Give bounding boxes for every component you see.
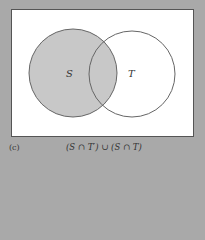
set-expression: (S ∩ T′) ∪ (S ∩ T) bbox=[66, 142, 142, 152]
set-t-label: T bbox=[128, 68, 135, 79]
set-s-label: S bbox=[66, 68, 73, 79]
part-label: (c) bbox=[9, 143, 20, 152]
